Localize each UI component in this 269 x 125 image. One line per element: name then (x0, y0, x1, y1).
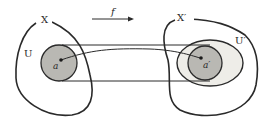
label-point-a-prime: a′ (203, 60, 210, 70)
label-space-x-prime: X′ (177, 12, 187, 23)
label-point-a: a (53, 61, 58, 71)
continuous-map-diagram: f X U a X′ U′ a′ (0, 0, 269, 125)
point-a (59, 58, 63, 62)
label-map-f: f (110, 6, 117, 17)
neighbourhood-u-disk (41, 45, 77, 81)
label-neighbourhood-u-prime: U′ (235, 35, 246, 46)
label-space-x: X (41, 14, 49, 25)
label-neighbourhood-u: U (24, 48, 32, 59)
arrowhead-icon (128, 17, 134, 22)
